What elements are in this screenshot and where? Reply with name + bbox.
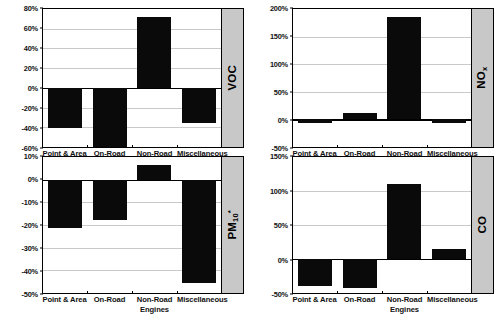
x-tick-label: Miscellaneous bbox=[427, 295, 472, 305]
bar[interactable] bbox=[298, 119, 332, 122]
x-tick-label: Point & Area bbox=[292, 295, 337, 305]
bar-slot bbox=[427, 9, 472, 147]
x-tick-mark bbox=[382, 145, 383, 148]
chart-panel-voc: 80%60%40%20%0%-20%-40%-60% VOC Point & A… bbox=[6, 8, 244, 148]
bars-nox bbox=[293, 9, 471, 147]
x-tick-mark bbox=[337, 145, 338, 148]
y-tick-label: 60% bbox=[24, 24, 38, 33]
x-tick-mark bbox=[132, 145, 133, 148]
y-axis-co: 150%100%50%0%-50% bbox=[256, 156, 290, 294]
panel-label-strip-co: CO bbox=[472, 156, 494, 294]
bar[interactable] bbox=[343, 113, 377, 120]
bar-slot bbox=[43, 157, 88, 293]
bar-slot bbox=[88, 9, 133, 147]
y-tick-label: 50% bbox=[274, 221, 288, 230]
y-tick-label: 20% bbox=[24, 64, 38, 73]
bar-slot bbox=[427, 157, 472, 293]
bar[interactable] bbox=[93, 88, 127, 147]
bar-slot bbox=[88, 157, 133, 293]
bar[interactable] bbox=[387, 17, 421, 119]
pollutant-label-voc: VOC bbox=[227, 65, 239, 91]
bar-slot bbox=[382, 157, 427, 293]
bar-slot bbox=[338, 157, 383, 293]
bar[interactable] bbox=[137, 17, 171, 88]
y-tick-label: -20% bbox=[22, 221, 38, 230]
panel-label-strip-pm10: PM10* bbox=[222, 156, 244, 294]
plot-area-pm10 bbox=[42, 156, 222, 294]
x-tick-mark bbox=[427, 145, 428, 148]
bar-slot bbox=[132, 157, 177, 293]
y-tick-label: 10% bbox=[24, 152, 38, 161]
x-axis-co: Point & AreaOn-RoadNon-Road EnginesMisce… bbox=[292, 294, 472, 318]
y-tick-label: 40% bbox=[24, 44, 38, 53]
plot-area-co bbox=[292, 156, 472, 294]
y-tick-label: 0% bbox=[28, 175, 38, 184]
x-tick-label: On-Road bbox=[87, 295, 132, 305]
bar[interactable] bbox=[137, 165, 171, 180]
y-tick-label: 0% bbox=[278, 116, 288, 125]
x-tick-mark bbox=[177, 145, 178, 148]
chart-panel-co: 150%100%50%0%-50% CO Point & AreaOn-Road… bbox=[256, 156, 494, 294]
y-tick-label: -40% bbox=[22, 267, 38, 276]
pollutant-label-co: CO bbox=[477, 216, 489, 234]
x-tick-label: Point & Area bbox=[42, 295, 87, 305]
bar-slot bbox=[293, 9, 338, 147]
y-tick-label: 50% bbox=[274, 88, 288, 97]
y-axis-pm10: 10%0%-10%-20%-30%-40%-50% bbox=[6, 156, 40, 294]
y-tick-label: -10% bbox=[22, 198, 38, 207]
y-tick-label: -20% bbox=[22, 104, 38, 113]
bar[interactable] bbox=[343, 259, 377, 288]
bar[interactable] bbox=[298, 259, 332, 286]
bar[interactable] bbox=[182, 88, 216, 123]
pollutant-label-pm10: PM10* bbox=[227, 210, 239, 240]
x-tick-label: Miscellaneous bbox=[177, 295, 222, 305]
bar-slot bbox=[43, 9, 88, 147]
pollutant-label-nox: NOx bbox=[477, 67, 489, 89]
bar-slot bbox=[293, 157, 338, 293]
y-tick-label: 200% bbox=[270, 4, 288, 13]
bar-slot bbox=[382, 9, 427, 147]
bar[interactable] bbox=[432, 119, 466, 123]
y-tick-label: -30% bbox=[22, 244, 38, 253]
bars-pm10 bbox=[43, 157, 221, 293]
y-tick-label: 150% bbox=[270, 152, 288, 161]
y-axis-nox: 200%150%100%50%0%-50% bbox=[256, 8, 290, 148]
x-tick-mark bbox=[337, 291, 338, 294]
bar[interactable] bbox=[93, 180, 127, 221]
plot-area-voc bbox=[42, 8, 222, 148]
y-axis-voc: 80%60%40%20%0%-20%-40%-60% bbox=[6, 8, 40, 148]
y-tick-label: -50% bbox=[22, 290, 38, 299]
y-tick-label: -40% bbox=[22, 124, 38, 133]
panel-label-strip-voc: VOC bbox=[222, 8, 244, 148]
x-tick-label: Non-Road Engines bbox=[132, 295, 177, 314]
x-tick-mark bbox=[132, 291, 133, 294]
y-tick-label: 0% bbox=[28, 84, 38, 93]
y-tick-label: 100% bbox=[270, 60, 288, 69]
panel-label-strip-nox: NOx bbox=[472, 8, 494, 148]
x-tick-mark bbox=[427, 291, 428, 294]
chart-panel-nox: 200%150%100%50%0%-50% NOx Point & AreaOn… bbox=[256, 8, 494, 148]
bar-slot bbox=[132, 9, 177, 147]
y-tick-label: 100% bbox=[270, 186, 288, 195]
bar[interactable] bbox=[182, 180, 216, 283]
x-tick-mark bbox=[87, 145, 88, 148]
bar-slot bbox=[338, 9, 383, 147]
y-tick-label: 80% bbox=[24, 4, 38, 13]
y-tick-label: 0% bbox=[278, 255, 288, 264]
bar[interactable] bbox=[387, 184, 421, 259]
bars-co bbox=[293, 157, 471, 293]
y-tick-label: 150% bbox=[270, 32, 288, 41]
bar-slot bbox=[177, 157, 222, 293]
x-axis-pm10: Point & AreaOn-RoadNon-Road EnginesMisce… bbox=[42, 294, 222, 318]
bars-voc bbox=[43, 9, 221, 147]
bar[interactable] bbox=[48, 180, 82, 229]
x-tick-mark bbox=[382, 291, 383, 294]
plot-area-nox bbox=[292, 8, 472, 148]
x-tick-label: Non-Road Engines bbox=[382, 295, 427, 314]
x-tick-label: On-Road bbox=[337, 295, 382, 305]
x-tick-mark bbox=[177, 291, 178, 294]
bar-slot bbox=[177, 9, 222, 147]
bar[interactable] bbox=[432, 249, 466, 259]
bar[interactable] bbox=[48, 88, 82, 128]
